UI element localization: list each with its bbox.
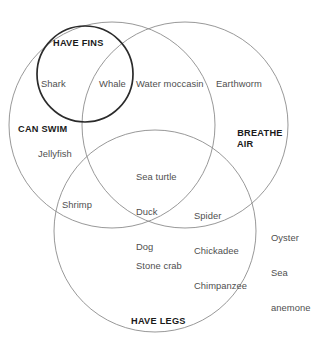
- set-title-breathe-air: BREATHE AIR: [226, 116, 283, 162]
- item-group-outside-all: Oyster Sea anemone: [271, 209, 310, 337]
- set-title-breathe-air-line2: AIR: [237, 139, 254, 149]
- item-oyster: Oyster: [271, 232, 310, 244]
- item-chickadee: Chickadee: [194, 245, 247, 257]
- item-group-swim-air-legs: Sea turtle Duck Dog: [136, 148, 177, 276]
- item-earthworm: Earthworm: [216, 78, 262, 90]
- item-jellyfish: Jellyfish: [38, 148, 72, 160]
- item-whale: Whale: [99, 78, 126, 90]
- item-dog: Dog: [136, 241, 177, 253]
- set-title-have-fins: HAVE FINS: [53, 38, 104, 50]
- item-sea-anemone-line2: anemone: [271, 302, 310, 314]
- item-sea-turtle: Sea turtle: [136, 171, 177, 183]
- item-sea-anemone-line1: Sea: [271, 267, 310, 279]
- item-shark: Shark: [41, 78, 66, 90]
- item-stone-crab: Stone crab: [136, 260, 182, 272]
- item-chimpanzee: Chimpanzee: [194, 280, 247, 292]
- item-shrimp: Shrimp: [62, 199, 92, 211]
- venn-diagram-figure: HAVE FINS CAN SWIM BREATHE AIR HAVE LEGS…: [0, 0, 322, 346]
- item-water-moccasin: Water moccasin: [136, 78, 204, 90]
- item-group-air-legs: Spider Chickadee Chimpanzee: [194, 187, 247, 315]
- set-title-breathe-air-line1: BREATHE: [237, 128, 282, 138]
- set-title-can-swim: CAN SWIM: [18, 124, 67, 136]
- item-duck: Duck: [136, 206, 177, 218]
- set-title-have-legs: HAVE LEGS: [131, 316, 186, 328]
- item-spider: Spider: [194, 210, 247, 222]
